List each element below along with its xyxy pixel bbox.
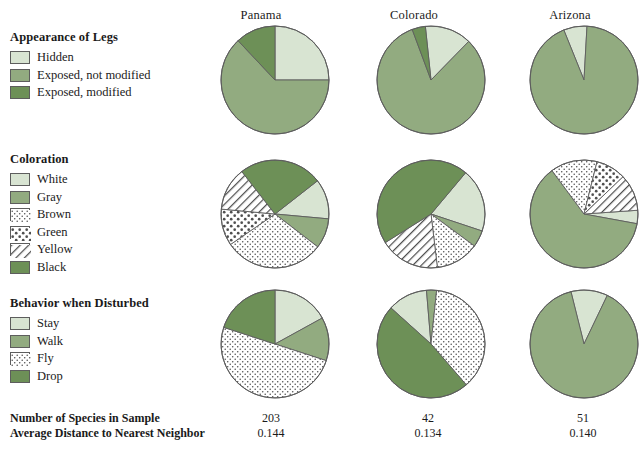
legend-item-label: Yellow	[37, 243, 73, 256]
legend-title: Behavior when Disturbed	[10, 296, 149, 311]
legend-item: Stay	[10, 316, 149, 331]
legend-item: Green	[10, 225, 73, 240]
legend-item: Fly	[10, 351, 149, 366]
summary-row-species: Number of Species in Sample 203 42 51	[10, 411, 624, 426]
summary-value: 0.144	[231, 426, 311, 441]
legend-item-label: Black	[37, 261, 66, 274]
column-header-arizona: Arizona	[500, 8, 640, 23]
legend-item: Hidden	[10, 50, 151, 65]
swatch-exposed-modified	[10, 86, 30, 99]
legend-item: Exposed, modified	[10, 85, 151, 100]
summary-value: 0.134	[388, 426, 468, 441]
pie-coloration-arizona	[528, 158, 640, 270]
swatch-stay	[10, 317, 30, 330]
swatch-brown	[10, 208, 30, 221]
legend-item-label: Exposed, not modified	[37, 69, 151, 82]
pie-coloration-panama	[219, 158, 331, 270]
swatch-hidden	[10, 51, 30, 64]
pie-legs-arizona	[528, 24, 640, 136]
column-header-panama: Panama	[191, 8, 331, 23]
summary-value: 0.140	[543, 426, 623, 441]
summary-row-distance: Average Distance to Nearest Neighbor 0.1…	[10, 426, 624, 441]
swatch-black	[10, 261, 30, 274]
summary-value: 203	[231, 411, 311, 426]
legend-item-label: Hidden	[37, 51, 74, 64]
column-header-colorado: Colorado	[344, 8, 484, 23]
swatch-gray	[10, 191, 30, 204]
pie-legs-panama	[219, 24, 331, 136]
legend-item: Black	[10, 260, 73, 275]
legend-item-label: Gray	[37, 191, 62, 204]
summary-row-label: Number of Species in Sample	[10, 411, 160, 426]
swatch-fly	[10, 352, 30, 365]
legend-item-label: Drop	[37, 370, 63, 383]
legend-title: Coloration	[10, 152, 73, 167]
legend-coloration: Coloration White Gray Brown	[10, 152, 73, 277]
pie-behavior-panama	[219, 288, 331, 400]
pie-coloration-colorado	[375, 158, 487, 270]
swatch-green	[10, 226, 30, 239]
legend-item: Gray	[10, 190, 73, 205]
legend-item-label: White	[37, 173, 68, 186]
swatch-white	[10, 173, 30, 186]
pie-behavior-colorado	[375, 288, 487, 400]
pie-legs-colorado	[375, 24, 487, 136]
legend-item-label: Exposed, modified	[37, 86, 131, 99]
legend-item-label: Green	[37, 226, 68, 239]
legend-appearance-of-legs: Appearance of Legs Hidden Exposed, not m…	[10, 30, 151, 103]
swatch-drop	[10, 370, 30, 383]
summary-value: 42	[388, 411, 468, 426]
swatch-yellow	[10, 243, 30, 256]
legend-item: Exposed, not modified	[10, 68, 151, 83]
legend-item-label: Fly	[37, 352, 54, 365]
legend-title: Appearance of Legs	[10, 30, 151, 45]
legend-item: Drop	[10, 369, 149, 384]
summary-row-label: Average Distance to Nearest Neighbor	[10, 426, 205, 441]
legend-item-label: Stay	[37, 317, 59, 330]
legend-item: White	[10, 172, 73, 187]
legend-item: Yellow	[10, 242, 73, 257]
summary-value: 51	[543, 411, 623, 426]
swatch-exposed-not-modified	[10, 69, 30, 82]
summary-table: Number of Species in Sample 203 42 51 Av…	[10, 411, 624, 441]
legend-item-label: Brown	[37, 208, 71, 221]
swatch-walk	[10, 335, 30, 348]
legend-behavior-when-disturbed: Behavior when Disturbed Stay Walk Fly	[10, 296, 149, 386]
legend-item-label: Walk	[37, 335, 63, 348]
legend-item: Walk	[10, 334, 149, 349]
legend-item: Brown	[10, 207, 73, 222]
pie-behavior-arizona	[528, 288, 640, 400]
